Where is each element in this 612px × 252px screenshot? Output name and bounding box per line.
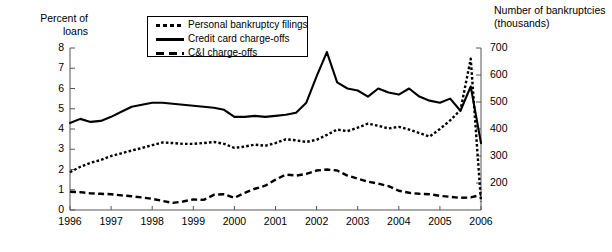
y-axis-tick-label: 7 (44, 62, 64, 73)
y-axis-tick-label: 2 (44, 164, 64, 175)
x-axis-tick-label: 2006 (461, 216, 501, 227)
y2-axis-tick-label: 200 (490, 177, 520, 188)
y2-axis-tick-label: 700 (490, 42, 520, 53)
x-axis-tick-label: 2000 (214, 216, 254, 227)
y2-axis-tick-label: 400 (490, 123, 520, 134)
y-axis-tick-label: 5 (44, 103, 64, 114)
y-axis-tick-label: 3 (44, 143, 64, 154)
y-axis-tick-label: 4 (44, 123, 64, 134)
y-axis-tick-label: 8 (44, 42, 64, 53)
series-line (70, 52, 481, 143)
y2-axis-tick-label: 300 (490, 150, 520, 161)
y-axis-tick-label: 1 (44, 184, 64, 195)
y-axis-tick-label: 6 (44, 83, 64, 94)
x-axis-tick-label: 2003 (338, 216, 378, 227)
legend-item-personal-bankruptcy-filings: Personal bankruptcy filings (154, 18, 307, 31)
y2-axis-tick-label: 600 (490, 69, 520, 80)
legend-item-credit-card-charge-offs: Credit card charge-offs (154, 32, 307, 45)
chart-figure: Percent of loans Number of bankruptcies … (0, 0, 612, 252)
y-axis-tick-label: 0 (44, 204, 64, 215)
y2-axis-tick-label: 500 (490, 96, 520, 107)
x-axis-tick-label: 1999 (173, 216, 213, 227)
legend-label: C&I charge-offs (188, 46, 257, 59)
x-axis-tick-label: 2004 (379, 216, 419, 227)
solid-line-swatch-icon (156, 38, 184, 41)
legend-label: Personal bankruptcy filings (188, 18, 308, 31)
x-axis-tick-label: 2001 (256, 216, 296, 227)
x-axis-tick-label: 2002 (297, 216, 337, 227)
x-axis-tick-label: 1997 (91, 216, 131, 227)
x-axis-tick-label: 2005 (420, 216, 460, 227)
dashed-line-swatch-icon (156, 52, 184, 55)
x-axis-tick-label: 1996 (50, 216, 90, 227)
legend-item-ci-charge-offs: C&I charge-offs (154, 46, 307, 59)
chart-legend: Personal bankruptcy filings Credit card … (147, 16, 308, 57)
series-line (70, 170, 481, 203)
dotted-line-swatch-icon (156, 24, 184, 27)
legend-label: Credit card charge-offs (188, 32, 290, 45)
x-axis-tick-label: 1998 (132, 216, 172, 227)
